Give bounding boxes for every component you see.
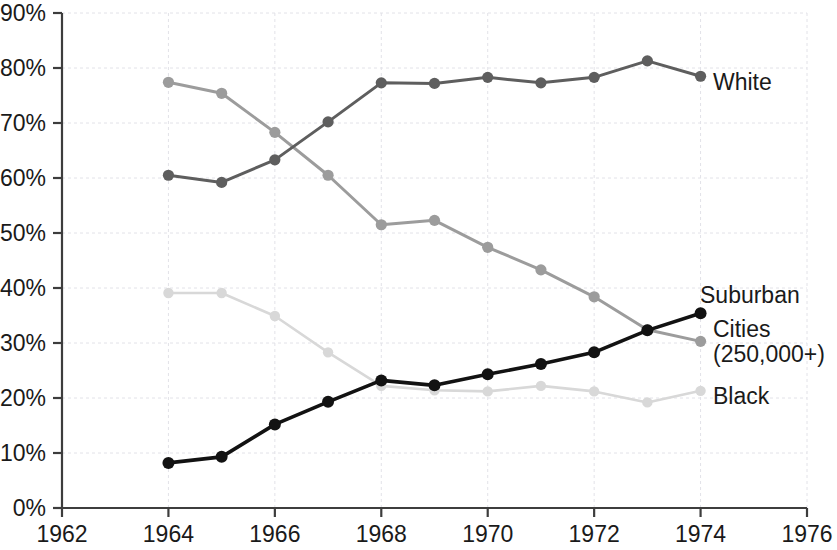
y-axis-tick-label: 90% [0,0,46,26]
series-suburban [162,307,706,469]
series-label-cities-detail: (250,000+) [713,341,825,367]
data-point-marker [589,291,600,302]
x-axis-tick-label: 1966 [249,521,300,547]
data-point-marker [695,336,706,347]
data-point-marker [535,77,546,88]
data-point-marker [482,242,493,253]
data-series [162,55,706,469]
data-point-marker [588,346,600,358]
series-label-black: Black [713,383,770,409]
x-axis-tick-label: 1972 [569,521,620,547]
series-line [168,82,700,341]
data-point-marker [216,288,226,298]
x-axis-tick-label: 1964 [143,521,194,547]
y-axis-tick-label: 70% [0,110,46,136]
data-point-marker [641,324,653,336]
data-point-marker [376,219,387,230]
data-point-marker [322,116,333,127]
data-point-marker [695,71,706,82]
data-point-marker [163,288,173,298]
data-point-marker [482,72,493,83]
data-point-marker [535,264,546,275]
y-axis-tick-label: 50% [0,220,46,246]
data-point-marker [323,347,333,357]
x-axis-tick-label: 1962 [36,521,87,547]
data-point-marker [322,170,333,181]
y-axis-tick-label: 10% [0,440,46,466]
data-point-marker [536,381,546,391]
x-axis-tick-label: 1974 [675,521,726,547]
data-point-marker [482,368,494,380]
data-point-marker [642,55,653,66]
y-axis-tick-label: 20% [0,385,46,411]
x-axis-tick-labels: 19621964196619681970197219741976 [36,521,832,547]
data-point-marker [376,77,387,88]
chart-canvas: 0%10%20%30%40%50%60%70%80%90% 1962196419… [0,0,837,550]
data-point-marker [162,457,174,469]
data-point-marker [269,127,280,138]
y-axis-tick-label: 60% [0,165,46,191]
y-axis-tick-labels: 0%10%20%30%40%50%60%70%80%90% [0,0,46,521]
data-point-marker [695,386,705,396]
x-axis-tick-label: 1976 [781,521,832,547]
y-axis-tick-label: 0% [13,495,46,521]
series-label-cities: Cities [713,316,771,342]
chart-axes [53,13,807,517]
data-point-marker [695,307,707,319]
data-point-marker [589,386,599,396]
data-point-marker [535,358,547,370]
data-point-marker [163,170,174,181]
data-point-marker [216,88,227,99]
data-point-marker [216,451,228,463]
data-point-marker [429,78,440,89]
data-point-marker [429,215,440,226]
data-point-marker [269,418,281,430]
y-axis-tick-label: 80% [0,55,46,81]
data-point-marker [589,72,600,83]
y-axis-tick-label: 30% [0,330,46,356]
x-axis-tick-label: 1968 [356,521,407,547]
series-label-white: White [713,69,772,95]
line-chart: 0%10%20%30%40%50%60%70%80%90% 1962196419… [0,0,837,550]
data-point-marker [270,311,280,321]
y-axis-tick-label: 40% [0,275,46,301]
series-label-suburban: Suburban [700,282,800,308]
x-axis-tick-label: 1970 [462,521,513,547]
data-point-marker [269,154,280,165]
data-point-marker [216,177,227,188]
data-point-marker [322,396,334,408]
data-point-marker [429,379,441,391]
series-white [163,55,706,188]
series-cities-250-000 [163,77,706,347]
data-point-marker [375,374,387,386]
data-point-marker [163,77,174,88]
data-point-marker [642,397,652,407]
series-labels: WhiteSuburbanCities(250,000+)Black [700,69,825,409]
data-point-marker [483,386,493,396]
